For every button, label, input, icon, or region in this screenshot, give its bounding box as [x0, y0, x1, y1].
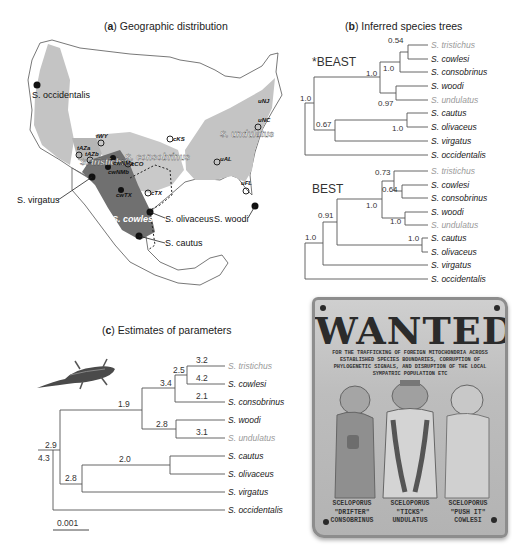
- suspect-caption-3: SCELOPORUS "PUSH IT" COWLESI: [439, 500, 497, 526]
- tip-label: S. tristichus: [228, 361, 273, 371]
- site-label: cKS: [173, 136, 185, 142]
- poster-subtitle: FOR THE TRAFFICKING OF FOREIGN MITOCHOND…: [323, 350, 497, 378]
- tip-label: S. cowlesi: [431, 54, 470, 64]
- suspect-caption-1: SCELOPORUS "DRIFTER" CONSOBRINUS: [323, 500, 381, 526]
- label-cautus: S. cautus: [165, 238, 203, 248]
- panel-letter: c: [106, 324, 112, 336]
- label-undulatus: S. undulatus: [220, 129, 274, 139]
- support-value: 0.64: [382, 185, 398, 194]
- tip-label: S. undulatus: [431, 95, 479, 105]
- tip-label: S. cowlesi: [228, 379, 267, 389]
- site-label: cTX: [151, 190, 163, 196]
- site-label: uNJ: [258, 98, 270, 104]
- support-value: 1.0: [305, 233, 317, 242]
- label-virgatus: S. virgatus: [17, 195, 60, 205]
- panel-b-title: (b) Inferred species trees: [345, 20, 462, 32]
- branch-value: 2.0: [119, 454, 131, 464]
- support-value: 0.73: [375, 168, 391, 177]
- branch-value: 3.4: [160, 378, 172, 388]
- frog-left: [335, 386, 375, 498]
- site-label: uNC: [258, 117, 271, 123]
- frog-right: [445, 385, 489, 498]
- label-woodi: S. woodi: [214, 214, 249, 224]
- panel-c-title: (c) Estimates of parameters: [102, 324, 232, 336]
- suspect-nickname: "TICKS": [381, 509, 439, 518]
- site-label: uAL: [220, 156, 232, 162]
- wanted-poster: WANTED FOR THE TRAFFICKING OF FOREIGN MI…: [312, 297, 508, 538]
- branch-value: 1.9: [118, 399, 130, 409]
- support-value: 1.0: [366, 69, 378, 78]
- branch-value: 2.9: [45, 440, 57, 450]
- frog-middle: [383, 380, 437, 498]
- support-value: 0.67: [316, 120, 332, 129]
- support-value: 1.0: [408, 234, 420, 243]
- branch-value: 4.3: [38, 453, 50, 463]
- scale-bar-label: 0.001: [57, 518, 79, 528]
- panel-letter: a: [108, 20, 114, 32]
- suspect-nickname: "DRIFTER": [323, 509, 381, 518]
- tip-label: S. woodi: [228, 415, 262, 425]
- best-label: BEST: [312, 182, 344, 196]
- suspect-genus: SCELOPORUS: [381, 500, 439, 509]
- geographic-distribution-map: S. tristichus S. consobrinus S. undulatu…: [0, 35, 300, 305]
- support-value: 1.0: [300, 94, 312, 103]
- tip-label: S. olivaceus: [431, 122, 478, 132]
- tip-label: S. occidentalis: [228, 505, 284, 515]
- support-value: 1.0: [383, 64, 395, 73]
- support-value: 1.0: [366, 201, 378, 210]
- tip-label: S. occidentalis: [431, 150, 487, 160]
- tip-label: S. woodi: [431, 207, 465, 217]
- tip-label: S. undulatus: [228, 433, 276, 443]
- parameter-tree: 3.2 4.2 2.5 2.1 3.4 2.8 3.1 1.9 2.0 2.8 …: [30, 340, 300, 540]
- suspect-species: COWLESI: [439, 517, 497, 526]
- panel-b-title-text: Inferred species trees: [361, 20, 462, 32]
- tip-label: S. tristichus: [431, 166, 476, 176]
- site-label: tAZb: [85, 151, 99, 157]
- panel-a-title: (a) Geographic distribution: [104, 20, 228, 32]
- label-cowlesi: S. cowlesi: [112, 214, 156, 224]
- site-label: tWY: [96, 133, 109, 139]
- branch-value: 3.1: [196, 427, 208, 437]
- support-value: 1.0: [390, 217, 402, 226]
- tip-label: S. woodi: [431, 81, 465, 91]
- tip-label: S. cautus: [228, 451, 264, 461]
- tip-label: S. undulatus: [431, 220, 479, 230]
- panel-letter: b: [349, 20, 355, 32]
- poster-title: WANTED: [315, 308, 505, 353]
- species-trees: *BEAST 0.54 1.0 1.0 0.97 1.0 0.67 1.0 S.…: [300, 35, 512, 295]
- branch-value: 2.1: [196, 391, 208, 401]
- parameter-tree-branches: [38, 366, 225, 510]
- suspect-genus: SCELOPORUS: [439, 500, 497, 509]
- beast-label: *BEAST: [312, 55, 357, 69]
- panel-a-title-text: Geographic distribution: [120, 20, 228, 32]
- label-olivaceus: S. olivaceus: [165, 214, 214, 224]
- tip-label: S. virgatus: [228, 487, 269, 497]
- frog-suspects-illustration: [325, 380, 495, 500]
- branch-value: 3.2: [196, 355, 208, 365]
- tip-label: S. virgatus: [431, 260, 472, 270]
- support-value: 0.54: [388, 36, 404, 45]
- branch-value: 2.8: [156, 419, 168, 429]
- site-label: uFL: [241, 180, 252, 186]
- suspect-caption-2: SCELOPORUS "TICKS" UNDULATUS: [381, 500, 439, 526]
- panel-c-title-text: Estimates of parameters: [118, 324, 232, 336]
- tip-label: S. olivaceus: [431, 247, 478, 257]
- label-occidentalis: S. occidentalis: [32, 90, 91, 100]
- suspect-genus: SCELOPORUS: [323, 500, 381, 509]
- tip-label: S. cowlesi: [431, 180, 470, 190]
- tip-label: S. consobrinus: [228, 397, 285, 407]
- support-value: 0.97: [378, 99, 394, 108]
- tip-label: S. cautus: [431, 233, 467, 243]
- tip-label: S. olivaceus: [228, 469, 275, 479]
- tip-label: S. tristichus: [431, 40, 476, 50]
- site-label: cwNMb: [108, 169, 129, 175]
- tip-label: S. consobrinus: [431, 67, 488, 77]
- site-label: cwNMa: [113, 160, 134, 166]
- branch-value: 2.8: [65, 473, 77, 483]
- branch-value: 4.2: [196, 373, 208, 383]
- tip-label: S. cautus: [431, 108, 467, 118]
- branch-value: 2.5: [173, 365, 185, 375]
- support-value: 1.0: [392, 124, 404, 133]
- suspect-species: CONSOBRINUS: [323, 517, 381, 526]
- tip-label: S. consobrinus: [431, 193, 488, 203]
